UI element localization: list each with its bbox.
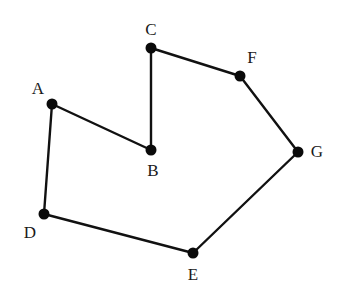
- edge-a-b: [52, 104, 151, 150]
- vertex-e-dot: [188, 248, 199, 259]
- vertex-label-e: E: [188, 265, 198, 284]
- vertex-c-dot: [146, 43, 157, 54]
- vertex-label-a: A: [32, 79, 45, 98]
- vertex-label-g: G: [311, 142, 323, 161]
- vertex-f-dot: [235, 71, 246, 82]
- vertex-b-dot: [146, 145, 157, 156]
- vertex-a-dot: [47, 99, 58, 110]
- edge-d-a: [44, 104, 52, 214]
- diagram-svg: ABCFGED: [0, 0, 339, 307]
- edges-group: [44, 48, 298, 253]
- polygon-diagram: ABCFGED: [0, 0, 339, 307]
- edge-e-d: [44, 214, 193, 253]
- vertex-label-f: F: [247, 48, 256, 67]
- vertex-label-b: B: [147, 161, 158, 180]
- vertices-group: [39, 43, 304, 259]
- edge-c-f: [151, 48, 240, 76]
- edge-g-e: [193, 152, 298, 253]
- labels-group: ABCFGED: [24, 20, 323, 284]
- vertex-label-c: C: [145, 20, 156, 39]
- vertex-g-dot: [293, 147, 304, 158]
- vertex-d-dot: [39, 209, 50, 220]
- vertex-label-d: D: [24, 223, 36, 242]
- edge-f-g: [240, 76, 298, 152]
